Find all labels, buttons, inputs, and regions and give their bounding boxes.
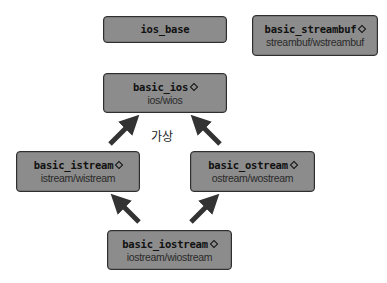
template-diamond-icon <box>358 25 366 33</box>
arrow-iostream-to-istream <box>117 200 139 222</box>
node-basic-iostream-name: basic_iostream <box>122 238 217 251</box>
virtual-inheritance-label: 가상 <box>151 127 173 144</box>
template-diamond-icon <box>210 239 218 247</box>
node-basic-iostream: basic_iostream iostream/wiostream <box>107 230 232 270</box>
node-basic-ios-subtitle: ios/wios <box>148 94 183 106</box>
node-basic-ostream-name: basic_ostream <box>208 159 297 172</box>
node-ios-base-name: ios_base <box>141 23 190 36</box>
arrow-ostream-to-ios <box>197 121 220 144</box>
node-basic-streambuf-subtitle: streambuf/wstreambuf <box>266 36 364 48</box>
node-basic-streambuf-name: basic_streambuf <box>265 23 366 36</box>
node-basic-ios-name: basic_ios <box>133 81 197 94</box>
template-diamond-icon <box>290 161 298 169</box>
template-diamond-icon <box>115 161 123 169</box>
arrow-iostream-to-ostream <box>191 200 213 222</box>
node-basic-ostream-subtitle: ostream/wostream <box>212 172 294 184</box>
node-basic-istream-subtitle: istream/wistream <box>41 172 116 184</box>
node-basic-ios: basic_ios ios/wios <box>103 73 227 113</box>
template-diamond-icon <box>190 82 198 90</box>
node-basic-istream: basic_istream istream/wistream <box>16 151 140 192</box>
arrow-istream-to-ios <box>110 121 133 144</box>
node-basic-iostream-subtitle: iostream/wiostream <box>127 251 213 263</box>
node-basic-ostream: basic_ostream ostream/wostream <box>190 151 315 192</box>
node-basic-istream-name: basic_istream <box>34 159 123 172</box>
node-basic-streambuf: basic_streambuf streambuf/wstreambuf <box>252 15 378 56</box>
node-ios-base: ios_base <box>103 16 227 43</box>
